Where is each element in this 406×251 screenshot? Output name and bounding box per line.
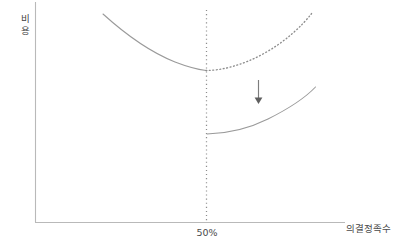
- x-axis-tick-label-50: 50%: [188, 226, 226, 239]
- original-cost-curve-dotted-branch: [206, 13, 312, 71]
- original-cost-curve-solid-branch: [103, 14, 206, 71]
- shifted-cost-curve: [207, 87, 316, 134]
- y-axis-label-stack: 비 용: [17, 13, 33, 36]
- y-axis-label-char-yong: 용: [17, 25, 33, 37]
- shift-down-arrow: [255, 80, 263, 104]
- shift-down-arrow-head: [255, 98, 263, 105]
- x-axis-label: 의결정족수: [346, 222, 391, 235]
- cost-vs-quorum-chart: [0, 0, 406, 251]
- y-axis-label-char-bi: 비: [17, 13, 33, 25]
- chart-screenshot: 비 용 50% 의결정족수: [0, 0, 406, 251]
